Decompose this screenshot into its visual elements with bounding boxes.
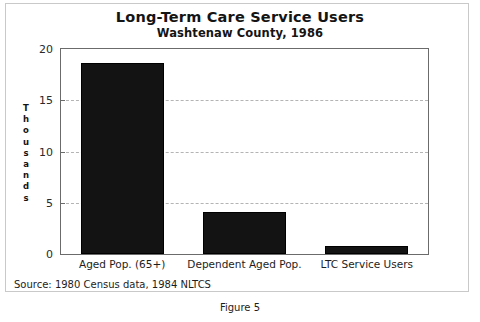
y-axis-title-letter: n: [18, 170, 34, 181]
y-axis-title-letter: h: [18, 114, 34, 125]
bar: [325, 246, 408, 254]
source-note: Source: 1980 Census data, 1984 NLTCS: [14, 279, 211, 290]
y-tick-mark: [61, 100, 65, 101]
y-tick-label: 10: [27, 145, 53, 158]
y-axis-title-letter: d: [18, 181, 34, 192]
y-axis-title-letter: o: [18, 125, 34, 136]
y-tick-mark: [61, 203, 65, 204]
x-tick-label: LTC Service Users: [127, 258, 480, 270]
y-tick-label: 15: [27, 94, 53, 107]
y-axis-title-letter: a: [18, 159, 34, 170]
figure-caption: Figure 5: [0, 302, 480, 313]
y-tick-label: 20: [27, 43, 53, 56]
y-tick-label: 5: [27, 196, 53, 209]
chart-subtitle: Washtenaw County, 1986: [0, 26, 480, 40]
plot-area: 05101520: [60, 48, 429, 255]
y-tick-mark: [61, 152, 65, 153]
bar: [203, 212, 286, 254]
bar: [81, 63, 164, 254]
chart-title: Long-Term Care Service Users: [0, 9, 480, 25]
